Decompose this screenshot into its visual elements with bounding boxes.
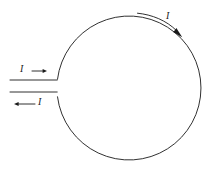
loop-current-label: I — [166, 11, 169, 21]
arrow-left-icon — [14, 102, 35, 106]
figure-canvas — [0, 0, 203, 173]
loop-circle-path — [58, 16, 201, 160]
inflow-current-label: I — [20, 64, 23, 74]
arrow-right-icon — [32, 69, 47, 73]
current-loop-figure: I I I — [0, 0, 203, 173]
outflow-current-label: I — [38, 97, 41, 107]
